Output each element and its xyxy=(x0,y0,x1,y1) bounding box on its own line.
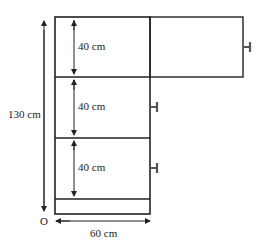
compartment-2-label: 40 cm xyxy=(78,100,106,112)
total-height-label: 130 cm xyxy=(8,108,41,120)
compartment-1-label: 40 cm xyxy=(78,40,106,52)
compartment-3-label: 40 cm xyxy=(78,161,106,173)
origin-label: O xyxy=(40,215,48,227)
door-handle-icon xyxy=(150,163,157,173)
door-handle-icon xyxy=(243,42,250,52)
open-door xyxy=(150,17,250,77)
cabinet-diagram: 130 cm 40 cm 40 cm 40 cm O 60 cm xyxy=(0,0,264,243)
door-handle-icon xyxy=(150,102,157,112)
width-label: 60 cm xyxy=(90,227,118,239)
